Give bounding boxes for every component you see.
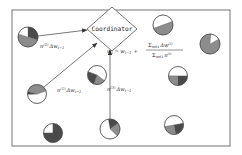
update-rule-numerator: Σm∈IΔw(i) <box>148 42 173 49</box>
update-rule-denominator: Σm∈In(i) <box>152 52 172 59</box>
client-bottom-left-pie-icon <box>44 124 63 143</box>
client-mid-right-pie-icon <box>169 67 188 86</box>
edge-client-top-left <box>38 30 87 36</box>
edge-label-client3: n(3)Δwt−1 <box>107 86 131 93</box>
edge-label-client1: n(1)Δwt−1 <box>57 87 81 94</box>
edge-label-client2: n(2)Δwt−1 <box>40 43 64 50</box>
client-far-right-pie-icon <box>200 34 220 54</box>
client-center-pie-icon <box>88 66 107 85</box>
client-top-left-pie-icon <box>18 27 38 47</box>
coordinator-node: Coordinator <box>87 7 137 51</box>
client-bottom-center-pie-icon <box>100 119 120 139</box>
client-bottom-right-pie-icon <box>165 116 184 135</box>
client-top-right-pie-icon <box>153 15 173 35</box>
diagram-canvas: Coordinator n(2)Δwt−1n(1)Δwt−1n(3)Δwt−1 … <box>0 0 242 155</box>
client-mid-left-pie-icon <box>27 85 46 104</box>
coordinator-label: Coordinator <box>92 25 133 32</box>
